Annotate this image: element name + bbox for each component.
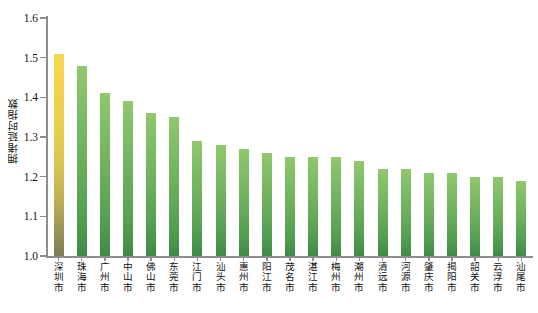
x-axis-tick-label: 中山市 (122, 262, 135, 293)
x-axis-tick-label-char: 市 (191, 283, 204, 293)
x-axis-tick-label-char: 市 (515, 283, 528, 293)
x-axis-tick-label: 汕头市 (214, 262, 227, 293)
x-axis-tick-label-char: 市 (98, 283, 111, 293)
bar[interactable] (146, 113, 156, 256)
x-axis-tick-label-char: 市 (284, 283, 297, 293)
x-axis-tick-label: 河源市 (399, 262, 412, 293)
x-axis-tick-label: 潮州市 (353, 262, 366, 293)
bar[interactable] (262, 153, 272, 256)
x-axis-tick-label-char: 市 (446, 283, 459, 293)
x-axis-tick-label-char: 市 (330, 283, 343, 293)
x-axis-tick-label-char: 市 (260, 283, 273, 293)
y-axis-tick-label: 1.6 (4, 12, 38, 24)
x-axis-tick-label: 阳江市 (260, 262, 273, 293)
bar[interactable] (378, 169, 388, 256)
y-axis-tick-label: 1.3 (4, 131, 38, 143)
bar[interactable] (308, 157, 318, 256)
y-axis-tick (40, 176, 47, 177)
y-axis-tick-label: 1.2 (4, 171, 38, 183)
bar-chart: 拥堵延时指数 1.61.51.41.31.21.11.0 深圳市珠海市广州市中山… (0, 0, 538, 313)
x-axis-tick-label: 东莞市 (168, 262, 181, 293)
y-axis-tick-label: 1.4 (4, 91, 38, 103)
y-axis-tick (40, 136, 47, 137)
x-axis-tick-label: 茂名市 (284, 262, 297, 293)
bar[interactable] (169, 117, 179, 256)
bar[interactable] (470, 177, 480, 256)
bar[interactable] (239, 149, 249, 256)
x-axis-tick-label: 揭阳市 (446, 262, 459, 293)
x-axis-tick-label: 韶关市 (469, 262, 482, 293)
bar[interactable] (192, 141, 202, 256)
bar[interactable] (123, 101, 133, 256)
x-axis-tick-label-char: 市 (122, 283, 135, 293)
x-axis-tick-label: 广州市 (98, 262, 111, 293)
plot-area (47, 18, 533, 256)
bar[interactable] (493, 177, 503, 256)
x-axis-tick-label-char: 市 (492, 283, 505, 293)
bar[interactable] (54, 54, 64, 256)
x-axis-tick-label: 江门市 (191, 262, 204, 293)
x-axis-tick-label: 汕尾市 (515, 262, 528, 293)
y-axis-tick-label: 1.0 (4, 250, 38, 262)
bar[interactable] (285, 157, 295, 256)
bar[interactable] (100, 93, 110, 256)
x-axis-tick-label: 梅州市 (330, 262, 343, 293)
y-axis-tick (40, 97, 47, 98)
x-axis-tick-label-char: 市 (168, 283, 181, 293)
x-axis-tick-label: 珠海市 (75, 262, 88, 293)
x-axis-tick-label: 惠州市 (237, 262, 250, 293)
x-axis-tick-label-char: 市 (52, 283, 65, 293)
x-axis-tick-label-char: 市 (399, 283, 412, 293)
x-axis-tick-label-char: 市 (145, 283, 158, 293)
x-axis-tick-label: 清远市 (376, 262, 389, 293)
x-axis-tick-label: 佛山市 (145, 262, 158, 293)
bar[interactable] (77, 66, 87, 256)
y-axis-tick-label: 1.1 (4, 210, 38, 222)
bar[interactable] (216, 145, 226, 256)
x-axis-tick-label: 肇庆市 (422, 262, 435, 293)
x-axis-tick-label: 湛江市 (307, 262, 320, 293)
x-axis-tick-label-char: 市 (237, 283, 250, 293)
y-axis-tick-label: 1.5 (4, 52, 38, 64)
y-axis-tick (40, 255, 47, 256)
x-axis-tick-label-char: 市 (214, 283, 227, 293)
bar[interactable] (424, 173, 434, 256)
x-axis-tick-label: 云浮市 (492, 262, 505, 293)
x-axis-tick-label-char: 市 (353, 283, 366, 293)
x-axis-tick-label-char: 市 (75, 283, 88, 293)
bar[interactable] (516, 181, 526, 256)
x-axis-tick-label-char: 市 (469, 283, 482, 293)
bar[interactable] (331, 157, 341, 256)
bar[interactable] (354, 161, 364, 256)
bar[interactable] (401, 169, 411, 256)
x-axis-tick-label: 深圳市 (52, 262, 65, 293)
y-axis-tick (40, 216, 47, 217)
x-axis-tick-label-char: 市 (307, 283, 320, 293)
y-axis-tick-labels: 1.61.51.41.31.21.11.0 (0, 0, 38, 313)
x-axis-tick-label-char: 市 (422, 283, 435, 293)
x-axis-tick-label-char: 市 (376, 283, 389, 293)
y-axis-tick (40, 57, 47, 58)
y-axis-tick (40, 17, 47, 18)
bar[interactable] (447, 173, 457, 256)
